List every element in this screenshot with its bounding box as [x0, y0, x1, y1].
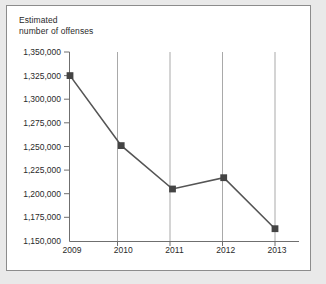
- vertical-gridlines: [118, 52, 276, 241]
- data-point-marker: [272, 225, 279, 232]
- data-line-series-1: [70, 76, 275, 229]
- figure-canvas: Estimatednumber of offenses 1,350,000 1,…: [0, 0, 326, 284]
- data-point-marker: [220, 174, 227, 181]
- chart-svg: [0, 0, 326, 284]
- plot-area: Estimatednumber of offenses 1,350,000 1,…: [0, 0, 326, 284]
- data-point-marker: [67, 72, 74, 79]
- x-axis-ticks: [118, 242, 276, 247]
- data-point-marker: [118, 142, 125, 149]
- data-point-markers: [67, 72, 279, 232]
- data-point-marker: [169, 186, 176, 193]
